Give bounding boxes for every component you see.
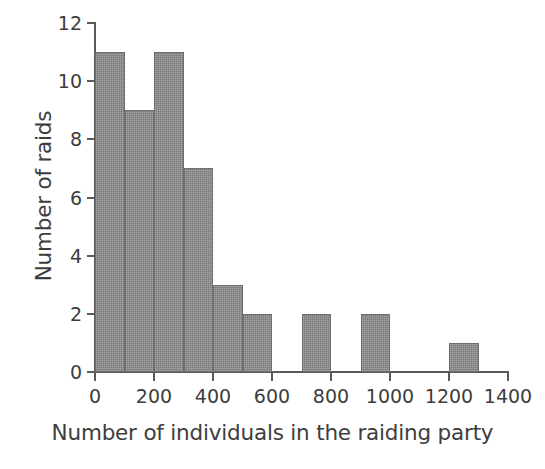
y-axis-tick-label: 0 <box>70 361 82 383</box>
histogram-bar <box>213 285 243 372</box>
y-axis-tick-label: 12 <box>58 12 82 34</box>
y-axis-tick-label: 10 <box>58 70 82 92</box>
x-axis-tick-label: 600 <box>254 385 290 407</box>
y-axis-tick <box>87 138 95 140</box>
y-axis-title: Number of raids <box>23 51 63 341</box>
x-axis-tick <box>153 372 155 381</box>
x-axis-title: Number of individuals in the raiding par… <box>0 420 545 445</box>
x-axis-tick-label: 800 <box>313 385 349 407</box>
histogram-bar <box>95 52 125 372</box>
histogram-bar <box>154 52 184 372</box>
x-axis-tick <box>507 372 509 381</box>
x-axis-tick <box>212 372 214 381</box>
x-axis-tick <box>448 372 450 381</box>
x-axis-tick <box>389 372 391 381</box>
x-axis-tick <box>271 372 273 381</box>
histogram-bar <box>302 314 332 372</box>
y-axis-tick-label: 2 <box>70 303 82 325</box>
plot-area: 0246810120200400600800100012001400 <box>95 23 508 372</box>
x-axis-tick-label: 1400 <box>484 385 532 407</box>
y-axis-tick <box>87 80 95 82</box>
y-axis-tick-label: 4 <box>70 245 82 267</box>
y-axis-tick <box>87 22 95 24</box>
y-axis-tick <box>87 313 95 315</box>
histogram-bar <box>449 343 479 372</box>
y-axis-tick-label: 6 <box>70 187 82 209</box>
x-axis-tick-label: 0 <box>89 385 101 407</box>
y-axis-tick <box>87 255 95 257</box>
histogram-bar <box>361 314 391 372</box>
x-axis-tick-label: 1000 <box>366 385 414 407</box>
x-axis-tick-label: 400 <box>195 385 231 407</box>
y-axis-tick <box>87 197 95 199</box>
histogram-bar <box>125 110 155 372</box>
x-axis-tick <box>94 372 96 381</box>
x-axis-tick <box>330 372 332 381</box>
histogram-figure: Number of raids 024681012020040060080010… <box>0 0 545 469</box>
histogram-bar <box>184 168 214 372</box>
y-axis-tick-label: 8 <box>70 128 82 150</box>
x-axis-tick-label: 200 <box>136 385 172 407</box>
histogram-bar <box>243 314 273 372</box>
x-axis-tick-label: 1200 <box>425 385 473 407</box>
